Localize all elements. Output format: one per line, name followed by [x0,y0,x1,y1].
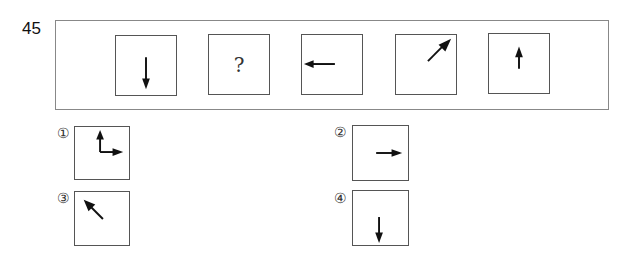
sequence-cell-2: ? [208,34,270,95]
arrow-down-icon [353,191,408,245]
sequence-cell-1 [115,35,177,96]
option-3-label: ③ [57,190,70,206]
option-1-label: ① [57,125,70,141]
option-3-cell[interactable] [74,191,130,246]
option-2-label: ② [334,124,347,140]
option-4-label: ④ [334,190,347,206]
option-2-cell[interactable] [352,125,409,181]
arrow-down-icon [116,36,176,95]
option-4-cell[interactable] [352,190,409,246]
question-mark: ? [209,35,269,94]
sequence-cell-3 [301,34,363,95]
question-number: 45 [22,19,41,39]
arrow-up-left-icon [75,192,129,245]
sequence-cell-5 [488,33,550,94]
arrow-up-right-icon [396,35,456,94]
arrow-up-right-corner-icon [75,127,129,179]
option-1-cell[interactable] [74,126,130,180]
arrow-right-icon [353,126,408,180]
arrow-left-icon [302,35,362,94]
sequence-cell-4 [395,34,457,95]
arrow-up-icon [489,34,549,93]
